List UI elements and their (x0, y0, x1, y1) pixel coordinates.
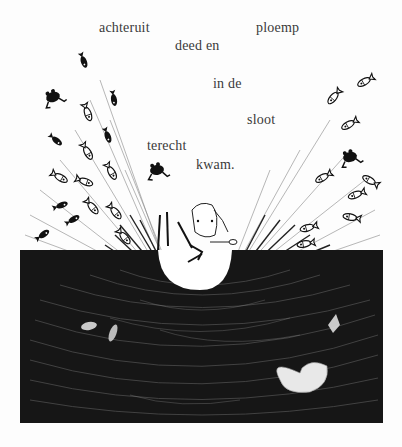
word-terecht: terecht (147, 139, 186, 153)
book-page: achteruit ploemp deed en in de sloot ter… (0, 0, 402, 447)
word-achteruit: achteruit (99, 21, 150, 35)
fish-left (34, 52, 132, 246)
fish-right (296, 73, 380, 248)
word-ploemp: ploemp (256, 21, 299, 35)
frog-middle (146, 161, 171, 181)
splash-illustration (0, 0, 402, 447)
lamb-head (192, 203, 237, 244)
word-deed-en: deed en (175, 39, 220, 53)
word-kwam: kwam. (196, 158, 235, 172)
frog-right (338, 147, 364, 169)
frog-left (41, 86, 67, 109)
word-sloot: sloot (247, 113, 275, 127)
word-in-de: in de (213, 77, 242, 91)
